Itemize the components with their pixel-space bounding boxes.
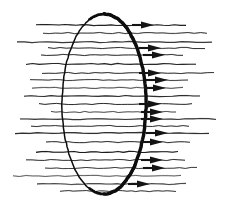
diagram-canvas: [0, 0, 234, 208]
field-line-diagram: [0, 0, 234, 208]
